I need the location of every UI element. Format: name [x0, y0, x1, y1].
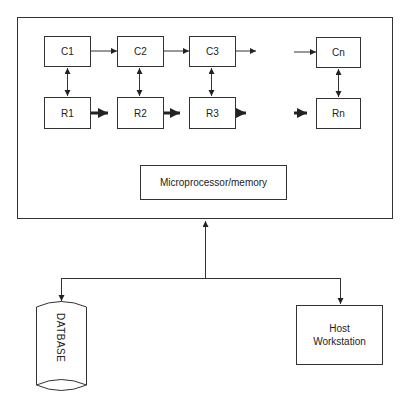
cell-r3-label: R3: [190, 98, 235, 128]
host-label: Host Workstation: [297, 306, 382, 364]
cell-rn-label: Rn: [317, 99, 360, 128]
cell-cn-label: Cn: [317, 38, 360, 67]
cell-r1-label: R1: [45, 98, 90, 128]
cell-c1-label: C1: [45, 37, 90, 66]
host-label-line2: Workstation: [313, 335, 366, 348]
cell-c2-label: C2: [118, 37, 163, 66]
cell-c3-label: C3: [190, 37, 235, 66]
processor-label: Microprocessor/memory: [141, 166, 286, 199]
host-label-line1: Host: [329, 322, 350, 335]
database-label: DATBASE: [55, 313, 66, 362]
cell-r2-label: R2: [118, 98, 163, 128]
